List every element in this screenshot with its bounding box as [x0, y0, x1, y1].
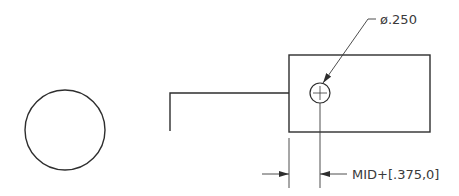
hole-callout-text: ø.250 [380, 12, 417, 27]
l-shaped-edge [170, 93, 289, 131]
offset-dimension-text: MID+[.375,0] [352, 167, 439, 182]
large-circle-view [25, 90, 105, 170]
hole-callout-leader [323, 19, 376, 83]
technical-drawing: ø.250 MID+[.375,0] [0, 0, 459, 196]
